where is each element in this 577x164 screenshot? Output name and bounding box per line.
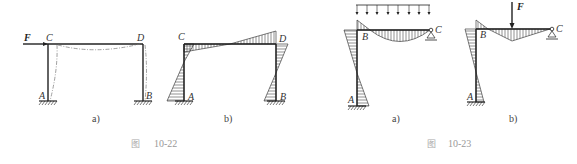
caption-prefix: 图 [427,139,436,149]
subfigure-label: a) [392,113,400,125]
moment-diagram [488,29,550,41]
moment-diagram [264,73,276,101]
moment-diagram [184,44,194,62]
figure-10-22b: C D A B b) [167,31,288,125]
moment-diagram [357,20,370,30]
moment-diagram [344,30,357,73]
figure-10-22a: F C D A B a) [23,32,152,125]
node-label-D: D [278,33,287,44]
moment-diagram [370,30,430,42]
node-label-A: A [466,91,474,102]
deflection-curve [50,45,57,101]
caption-prefix: 图 [131,139,140,149]
caption-number: 10-23 [448,138,471,149]
fixed-support-icon [467,102,485,106]
node-label-A: A [38,90,46,101]
moment-diagram [167,62,184,101]
node-label-D: D [136,32,145,43]
node-label-B: B [362,31,368,42]
roller-support-icon [427,32,435,38]
node-label-A: A [187,91,195,102]
subfigure-label: b) [224,113,232,125]
figure-10-23b: F B C A b) [465,1,563,125]
node-label-C: C [556,23,563,34]
node-label-B: B [280,91,286,102]
moment-diagram [276,44,288,73]
node-label-C: C [178,31,185,42]
node-label-C: C [435,24,442,35]
moment-diagram [465,29,476,72]
force-label: F [516,1,524,12]
deflection-curve [58,44,140,50]
moment-diagram [476,20,488,29]
arrow-head-icon [510,23,515,29]
figure-10-23a: B C A a) [344,5,442,125]
subfigure-label: b) [509,113,517,125]
moment-diagram [230,31,276,44]
subfigure-label: a) [92,113,100,125]
fixed-support-icon [39,101,57,105]
pin-icon [429,28,433,32]
moment-diagram [476,72,484,102]
fixed-support-icon [134,101,152,105]
node-label-B: B [146,90,152,101]
caption-number: 10-22 [154,138,177,149]
pin-icon [550,27,554,31]
node-label-C: C [46,32,53,43]
fixed-support-icon [348,106,366,110]
node-label-B: B [480,29,486,40]
moment-diagram [357,73,369,106]
force-label: F [23,32,31,43]
node-label-A: A [347,94,355,105]
roller-support-icon [548,31,556,37]
